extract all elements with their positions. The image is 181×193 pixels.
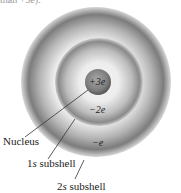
1s-subshell-label: 1s subshell — [27, 158, 76, 169]
2s-subshell-label: 2s subshell — [57, 181, 106, 192]
2s-label-rest: subshell — [67, 180, 106, 192]
nucleus-label: Nucleus — [3, 136, 39, 147]
2s-leader-line — [75, 160, 84, 179]
nucleus-charge: +3e — [89, 77, 105, 87]
2s-charge: −e — [92, 138, 103, 148]
1s-charge: −2e — [89, 105, 105, 115]
1s-label-rest: subshell — [37, 157, 76, 169]
